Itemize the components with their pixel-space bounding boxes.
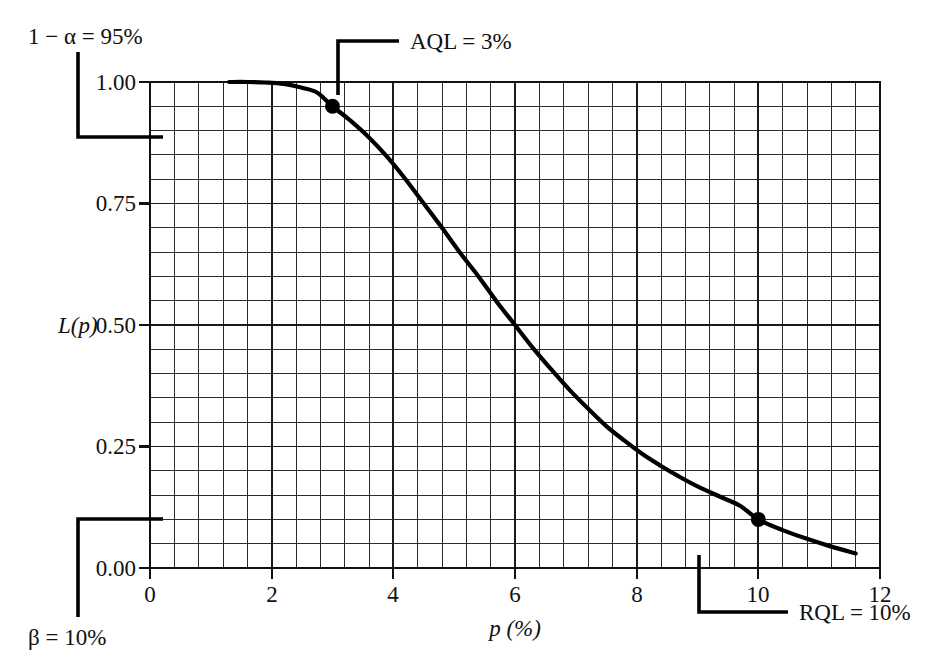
data-point-marker bbox=[751, 512, 766, 527]
oc-curve-figure: 1 − α = 95% AQL = 3% β = 10% RQL = 10% 1… bbox=[0, 0, 947, 667]
x-tick-label-10: 10 bbox=[747, 582, 770, 607]
aql-annotation-label: AQL = 3% bbox=[410, 29, 512, 54]
y-tick-label-0-25: 0.25 bbox=[96, 434, 136, 459]
y-tick-label-1-00: 1.00 bbox=[96, 70, 136, 95]
x-tick-label-8: 8 bbox=[631, 582, 643, 607]
x-tick-label-6: 6 bbox=[509, 582, 521, 607]
rql-annotation-label: RQL = 10% bbox=[799, 600, 911, 625]
x-tick-label-2: 2 bbox=[266, 582, 278, 607]
x-tick-label-0: 0 bbox=[144, 582, 156, 607]
x-tick-label-12: 12 bbox=[869, 582, 892, 607]
y-tick-label-0-50: 0.50 bbox=[96, 313, 136, 338]
oc-curve-chart: 1 − α = 95% AQL = 3% β = 10% RQL = 10% 1… bbox=[0, 0, 947, 667]
beta-annotation-label: β = 10% bbox=[28, 625, 106, 650]
x-axis-title: p (%) bbox=[487, 616, 541, 641]
y-tick-label-0-75: 0.75 bbox=[96, 191, 136, 216]
y-axis-title: L(p) bbox=[57, 313, 98, 338]
x-tick-label-4: 4 bbox=[387, 582, 399, 607]
y-tick-label-0-00: 0.00 bbox=[96, 556, 136, 581]
data-point-marker bbox=[325, 99, 340, 114]
alpha-annotation-label: 1 − α = 95% bbox=[28, 24, 143, 49]
